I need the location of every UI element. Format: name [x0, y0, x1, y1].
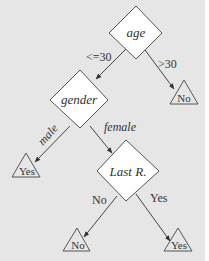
edge-age-gt30: >30: [145, 50, 177, 89]
leaf-male: Yes: [12, 153, 40, 177]
edge-gender-male: male: [35, 121, 70, 162]
edge-label-le30: <=30: [86, 50, 112, 64]
leaf-label-lastr-yes: Yes: [171, 239, 187, 251]
edge-age-le30: <=30: [86, 49, 126, 79]
edge-lastr-yes: Yes: [136, 191, 170, 241]
edge-label-lastr-no: No: [92, 193, 107, 207]
leaf-label-lastr-no: No: [71, 239, 85, 251]
decision-tree-diagram: <=30 >30 male female No Yes age g: [0, 0, 209, 261]
edge-label-male: male: [35, 121, 61, 148]
leaf-label-age-gt30: No: [177, 92, 191, 104]
node-age: age: [109, 6, 162, 59]
leaf-lastr-no: No: [63, 228, 90, 251]
edge-label-lastr-yes: Yes: [150, 191, 168, 205]
edge-lastr-no: No: [84, 193, 117, 237]
leaf-age-gt30: No: [170, 80, 198, 104]
leaf-lastr-yes: Yes: [164, 228, 192, 251]
node-label-gender: gender: [61, 92, 98, 107]
node-label-last-r: Last R.: [109, 164, 147, 179]
node-label-age: age: [127, 25, 146, 40]
edge-label-female: female: [104, 120, 137, 134]
edge-label-gt30: >30: [158, 57, 177, 71]
leaf-label-male: Yes: [19, 165, 35, 177]
node-gender: gender: [50, 70, 108, 128]
